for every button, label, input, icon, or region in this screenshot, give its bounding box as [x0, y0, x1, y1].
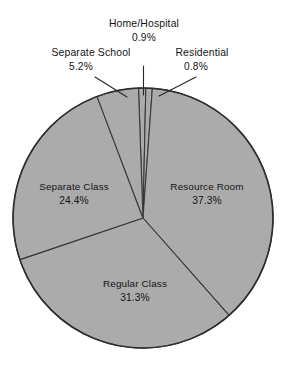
slice-value-residential: 0.8%	[184, 61, 208, 72]
slice-label-regular-class: Regular Class	[103, 278, 167, 289]
slice-value-home-hospital: 0.9%	[132, 32, 156, 43]
pie-chart-container: Home/Hospital 0.9% Separate School 5.2% …	[0, 0, 288, 366]
pie-slices-group	[13, 88, 273, 348]
slice-label-separate-school: Separate School	[51, 47, 130, 58]
slice-value-regular-class: 31.3%	[120, 292, 150, 303]
slice-label-resource-room: Resource Room	[170, 181, 243, 192]
slice-value-separate-school: 5.2%	[69, 61, 93, 72]
pie-chart-svg: Home/Hospital 0.9% Separate School 5.2% …	[0, 0, 288, 366]
slice-value-separate-class: 24.4%	[59, 195, 89, 206]
slice-label-separate-class: Separate Class	[39, 181, 109, 192]
slice-label-home-hospital: Home/Hospital	[109, 18, 179, 29]
slice-value-resource-room: 37.3%	[192, 195, 222, 206]
slice-label-residential: Residential	[175, 47, 228, 58]
